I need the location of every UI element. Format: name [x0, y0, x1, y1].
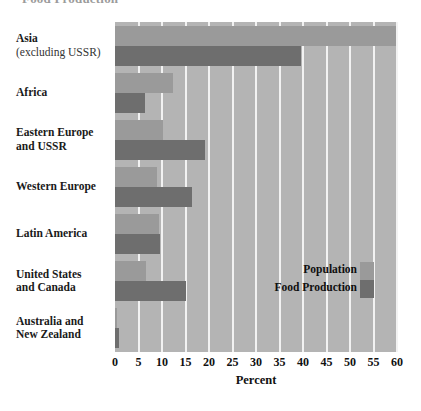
- gridline-40: [302, 22, 304, 352]
- category-label-line2: New Zealand: [16, 328, 112, 342]
- bar-food-production: [115, 234, 160, 254]
- gridline-20: [208, 22, 210, 352]
- bar-population: [115, 308, 117, 328]
- chart-legend: Population Food Production: [245, 262, 373, 298]
- bar-population: [115, 214, 159, 234]
- category-label-line1: United States: [16, 268, 112, 282]
- bar-food-production: [115, 187, 192, 207]
- bar-food-production: [115, 281, 186, 301]
- category-label: Eastern Europeand USSR: [16, 126, 112, 153]
- gridline-45: [326, 22, 328, 352]
- chart-title: Food Production: [22, 0, 118, 7]
- bar-population: [115, 26, 396, 46]
- chart-page: Food Production Asia(excluding USSR)Afri…: [0, 0, 421, 411]
- category-label-line2: and Canada: [16, 281, 112, 295]
- category-label: Asia(excluding USSR): [16, 32, 112, 59]
- category-label: Australia andNew Zealand: [16, 315, 112, 342]
- legend-label-food-production: Food Production: [274, 281, 357, 293]
- x-tick-5: 5: [126, 355, 152, 370]
- gridline-35: [279, 22, 281, 352]
- gridline-60: [396, 22, 398, 352]
- x-tick-30: 30: [243, 355, 269, 370]
- gridline-55: [373, 22, 375, 352]
- x-tick-40: 40: [290, 355, 316, 370]
- legend-swatch-population: [360, 262, 374, 280]
- category-label-line1: Eastern Europe: [16, 126, 112, 140]
- category-label-line2: (excluding USSR): [16, 46, 112, 60]
- bar-population: [115, 120, 163, 140]
- bar-food-production: [115, 328, 119, 348]
- x-tick-20: 20: [196, 355, 222, 370]
- category-label-line1: Latin America: [16, 227, 112, 241]
- bar-population: [115, 261, 146, 281]
- category-label-line1: Australia and: [16, 315, 112, 329]
- x-axis-title: Percent: [115, 373, 397, 388]
- bar-food-production: [115, 140, 205, 160]
- bar-population: [115, 73, 173, 93]
- category-label-line1: Africa: [16, 86, 112, 100]
- legend-label-population: Population: [303, 263, 357, 275]
- legend-swatch-food-production: [360, 280, 374, 298]
- bar-population: [115, 167, 157, 187]
- category-label: United Statesand Canada: [16, 268, 112, 295]
- category-label-line1: Asia: [16, 32, 112, 46]
- gridline-25: [232, 22, 234, 352]
- x-tick-35: 35: [267, 355, 293, 370]
- gridline-50: [349, 22, 351, 352]
- x-tick-45: 45: [314, 355, 340, 370]
- legend-item-population: Population: [245, 262, 373, 280]
- category-label-line2: and USSR: [16, 140, 112, 154]
- category-label-line1: Western Europe: [16, 180, 112, 194]
- bar-food-production: [115, 46, 301, 66]
- bar-food-production: [115, 93, 145, 113]
- x-tick-60: 60: [384, 355, 410, 370]
- plot-area: [115, 22, 397, 352]
- x-tick-10: 10: [149, 355, 175, 370]
- gridline-30: [255, 22, 257, 352]
- x-tick-15: 15: [173, 355, 199, 370]
- legend-item-food-production: Food Production: [245, 280, 373, 298]
- x-tick-25: 25: [220, 355, 246, 370]
- category-label: Latin America: [16, 227, 112, 241]
- category-label: Africa: [16, 86, 112, 100]
- x-tick-50: 50: [337, 355, 363, 370]
- x-tick-0: 0: [102, 355, 128, 370]
- category-label: Western Europe: [16, 180, 112, 194]
- x-tick-55: 55: [361, 355, 387, 370]
